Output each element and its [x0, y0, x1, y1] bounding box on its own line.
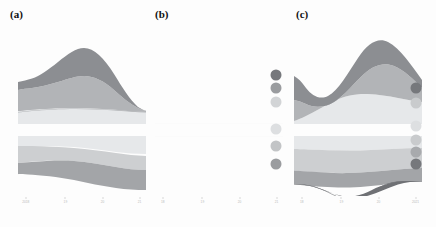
- panel-a-tickmark-1: [65, 197, 66, 199]
- panel-b-tick-1: 19: [201, 200, 205, 205]
- panel-b-marker-1: [271, 70, 282, 81]
- panel-b-marker-6: [271, 159, 282, 170]
- panel-c-marker-6: [411, 159, 422, 170]
- panel-a-stream-svg: [18, 28, 146, 196]
- panel-a-tickmark-3: [139, 197, 140, 199]
- panel-c-tick-1: 19: [340, 200, 344, 205]
- panel-a-tick-1: 19: [64, 200, 68, 205]
- panel-c-tick-3: 2021: [412, 200, 419, 205]
- panel-b-tick-2: 20: [238, 200, 242, 205]
- panel-a-plot: [18, 28, 146, 196]
- panel-c-marker-2: [411, 98, 422, 109]
- stream-chart-figure: (a) 2018 19: [0, 0, 436, 227]
- panel-a-tick-labels: 2018 19 20 21: [18, 199, 146, 211]
- panel-c-marker-1: [411, 83, 422, 94]
- panel-b-tick-labels: 18 19 20 21: [155, 199, 283, 211]
- panel-c-plot: [294, 28, 422, 196]
- panel-c-tickmark-2: [378, 197, 379, 199]
- panel-b-marker-5: [271, 141, 282, 152]
- panel-c-tick-0: 18: [300, 200, 304, 205]
- panel-b: (b) 18 19: [150, 0, 290, 227]
- panel-b-tick-3: 21: [275, 200, 279, 205]
- panel-c-tickmark-1: [341, 197, 342, 199]
- panel-b-plot: [155, 28, 283, 196]
- panel-c-tickmark-3: [415, 197, 416, 199]
- panel-a-tickmark-0: [25, 197, 26, 199]
- panel-c-label: (c): [296, 8, 308, 20]
- panel-a: (a) 2018 19: [0, 0, 150, 227]
- panel-a-tick-3: 21: [138, 200, 142, 205]
- panel-c-tick-2: 20: [377, 200, 381, 205]
- panel-a-upper-stream: [18, 48, 146, 124]
- panel-b-tickmark-2: [239, 197, 240, 199]
- panel-a-tick-0: 2018: [22, 200, 29, 205]
- panel-b-marker-2: [271, 83, 282, 94]
- panel-c-tick-labels: 18 19 20 2021: [294, 199, 422, 211]
- panel-b-endpoint-markers: [155, 28, 283, 196]
- panel-b-marker-4: [271, 124, 282, 135]
- panel-a-lower-stream: [18, 136, 146, 190]
- panel-b-marker-3: [271, 97, 282, 108]
- panel-c-marker-4: [411, 135, 422, 146]
- panel-a-tick-2: 20: [101, 200, 105, 205]
- panel-c-marker-3: [411, 121, 422, 132]
- panel-a-tickmark-2: [102, 197, 103, 199]
- panel-c: (c): [290, 0, 436, 227]
- panel-b-tickmark-1: [202, 197, 203, 199]
- panel-b-label: (b): [155, 8, 168, 20]
- panel-b-tickmark-3: [276, 197, 277, 199]
- panel-a-label: (a): [10, 8, 23, 20]
- panel-b-tickmark-0: [162, 197, 163, 199]
- panel-b-tick-0: 18: [161, 200, 165, 205]
- panel-c-marker-5: [411, 147, 422, 158]
- panel-c-endpoint-markers: [294, 28, 422, 196]
- panel-c-tickmark-0: [301, 197, 302, 199]
